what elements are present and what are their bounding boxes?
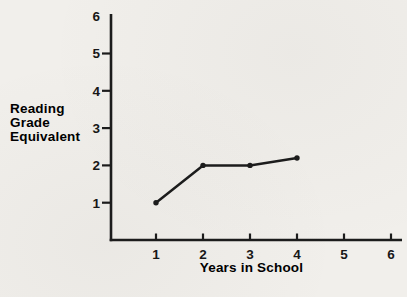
data-point-marker	[294, 155, 299, 160]
y-tick-label: 4	[92, 84, 100, 99]
data-point-marker	[200, 163, 205, 168]
y-tick-label: 6	[92, 9, 100, 24]
x-axis-title: Years in School	[111, 260, 392, 275]
y-tick-label: 2	[92, 158, 100, 173]
y-tick-label: 5	[92, 46, 100, 61]
y-tick-label: 1	[92, 196, 100, 211]
data-point-marker	[247, 163, 252, 168]
data-series-line	[156, 158, 297, 203]
chart-svg: 123456123456	[0, 0, 407, 297]
y-tick-label: 3	[92, 121, 100, 136]
data-point-marker	[153, 200, 158, 205]
chart-figure: Reading Grade Equivalent 123456123456 Ye…	[0, 0, 407, 297]
